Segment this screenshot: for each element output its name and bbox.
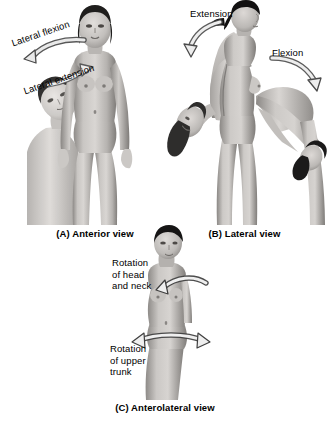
extension-arrow [184, 22, 220, 57]
caption-panel-b: (B) Lateral view [160, 228, 329, 239]
panel-anterolateral-view: Rotation of head and neck Rotation of up… [60, 245, 270, 425]
lateral-view-arrows [160, 0, 329, 160]
label-rotation-head-and-neck: Rotation of head and neck [112, 257, 151, 292]
anterolateral-view-arrows [60, 245, 270, 400]
flexion-arrow [272, 58, 321, 91]
panel-lateral-view: Extension Flexion (B) Lateral view [160, 0, 329, 245]
caption-panel-a: (A) Anterior view [20, 228, 170, 239]
panel-anterior-view: Lateral flexion Lateral extension (A) An… [0, 0, 165, 245]
label-extension: Extension [190, 8, 233, 20]
label-flexion: Flexion [272, 47, 303, 59]
rotation-head-neck-arrow [156, 278, 206, 294]
label-rotation-upper-trunk: Rotation of upper trunk [110, 343, 146, 378]
anatomy-figure: Lateral flexion Lateral extension (A) An… [0, 0, 329, 425]
lateral-flexion-arrow [24, 40, 84, 63]
caption-panel-c: (C) Anterolateral view [60, 402, 270, 413]
anterior-view-arrows [0, 0, 165, 120]
